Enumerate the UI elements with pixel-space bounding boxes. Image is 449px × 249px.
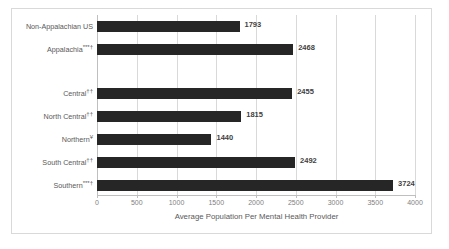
bar-value-label: 2468 — [298, 42, 315, 53]
bar-row[interactable]: 3724 — [97, 180, 415, 191]
bar[interactable] — [97, 21, 240, 32]
category-label: Appalachia***† — [47, 44, 93, 55]
category-label-superscript: †† — [86, 157, 93, 163]
x-tick-2500 — [296, 195, 297, 198]
bar-row[interactable]: 2468 — [97, 44, 415, 55]
x-tick-label: 2500 — [288, 199, 304, 206]
category-label: Southern***† — [53, 180, 93, 191]
gridline-3000 — [336, 15, 337, 195]
category-label-superscript: †† — [86, 88, 93, 94]
category-label-superscript: ***† — [83, 180, 93, 186]
bar-value-label: 2492 — [300, 155, 317, 166]
x-axis-title: Average Population Per Mental Health Pro… — [97, 212, 416, 221]
category-axis-labels: Non-Appalachian USAppalachia***†Central†… — [12, 15, 93, 195]
x-tick-label: 1000 — [169, 199, 185, 206]
gridline-4000 — [415, 15, 416, 195]
category-label: North Central†† — [44, 111, 93, 122]
x-tick-2000 — [256, 195, 257, 198]
bar-row[interactable]: 2492 — [97, 157, 415, 168]
bar-row[interactable]: 1793 — [97, 21, 415, 32]
bar[interactable] — [97, 88, 292, 99]
bar[interactable] — [97, 134, 211, 145]
category-label-superscript: †† — [86, 111, 93, 117]
x-tick-label: 3000 — [328, 199, 344, 206]
x-tick-4000 — [415, 195, 416, 198]
bar-value-label: 1793 — [245, 19, 262, 30]
bar[interactable] — [97, 44, 293, 55]
x-tick-label: 3500 — [367, 199, 383, 206]
bar-value-label: 3724 — [398, 178, 415, 189]
plot-area: 1793246824551815144024923724 — [97, 15, 415, 195]
bar[interactable] — [97, 180, 393, 191]
bar-value-label: 1440 — [216, 132, 233, 143]
category-label: Northern¥ — [62, 134, 93, 145]
x-tick-3000 — [336, 195, 337, 198]
gridline-3500 — [375, 15, 376, 195]
gridline-0 — [97, 15, 98, 195]
chart-container: Non-Appalachian USAppalachia***†Central†… — [11, 8, 432, 234]
gridline-1000 — [177, 15, 178, 195]
x-tick-label: 1500 — [208, 199, 224, 206]
x-tick-3500 — [375, 195, 376, 198]
category-label: South Central†† — [42, 157, 93, 168]
x-tick-label: 2000 — [248, 199, 264, 206]
category-label-superscript: ***† — [83, 44, 93, 50]
x-tick-label: 0 — [95, 199, 99, 206]
bar-row[interactable]: 2455 — [97, 88, 415, 99]
gridline-500 — [137, 15, 138, 195]
x-tick-1500 — [216, 195, 217, 198]
x-tick-500 — [137, 195, 138, 198]
bar-row[interactable]: 1815 — [97, 111, 415, 122]
x-tick-0 — [97, 195, 98, 198]
gridline-2000 — [256, 15, 257, 195]
bar-value-label: 2455 — [297, 86, 314, 97]
x-tick-label: 500 — [131, 199, 143, 206]
bar[interactable] — [97, 111, 241, 122]
bar[interactable] — [97, 157, 295, 168]
category-label-superscript: ¥ — [90, 134, 93, 140]
bar-row[interactable]: 1440 — [97, 134, 415, 145]
gridline-1500 — [216, 15, 217, 195]
x-tick-label: 4000 — [407, 199, 423, 206]
gridline-2500 — [296, 15, 297, 195]
bar-value-label: 1815 — [246, 109, 263, 120]
category-label: Central†† — [63, 88, 93, 99]
category-label: Non-Appalachian US — [26, 21, 93, 32]
x-tick-1000 — [177, 195, 178, 198]
